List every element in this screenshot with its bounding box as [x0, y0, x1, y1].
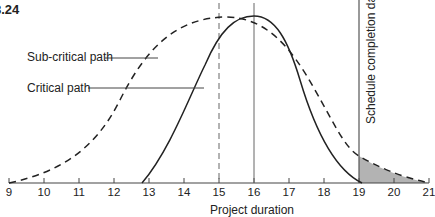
tick-label: 10 — [38, 186, 51, 198]
critical-path-curve — [142, 16, 362, 183]
tick-label: 20 — [388, 186, 401, 198]
tick-label: 16 — [248, 186, 261, 198]
tick-label: 15 — [213, 186, 226, 198]
tick-label: 14 — [178, 186, 191, 198]
critical-path-label: Critical path — [27, 81, 90, 95]
tick-label: 12 — [108, 186, 121, 198]
tick-label: 17 — [283, 186, 296, 198]
tick-label: 19 — [353, 186, 366, 198]
tick-label: 21 — [423, 186, 435, 198]
tick-label: 11 — [73, 186, 85, 198]
tick-label: 13 — [143, 186, 156, 198]
tick-label: 18 — [318, 186, 331, 198]
sub-critical-path-label: Sub-critical path — [27, 50, 113, 64]
schedule-completion-label: Schedule completion date — [364, 0, 378, 124]
x-axis-label: Project duration — [210, 203, 294, 217]
tick-label: 9 — [6, 186, 12, 198]
